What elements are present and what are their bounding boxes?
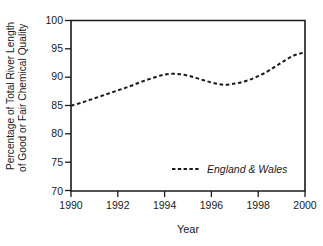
x-tick-label: 1996 (200, 199, 224, 211)
x-tick-label: 1998 (247, 199, 271, 211)
x-axis-title: Year (177, 223, 200, 235)
chart-svg: Percentage of Total River Length of Good… (0, 0, 323, 246)
y-tick-labels: 100 95 90 85 80 75 70 (45, 14, 63, 197)
x-tick-label: 1990 (59, 199, 83, 211)
legend-label: England & Wales (207, 163, 288, 175)
y-tick-label: 100 (45, 14, 63, 26)
y-axis-ticks (65, 21, 71, 191)
x-tick-labels: 1990 1992 1994 1996 1998 2000 (59, 199, 317, 211)
x-tick-label: 1992 (106, 199, 130, 211)
y-tick-label: 80 (51, 127, 63, 139)
series-line-england-wales (71, 52, 305, 105)
y-tick-label: 75 (51, 156, 63, 168)
x-tick-label: 1994 (153, 199, 177, 211)
y-axis-title-line2: of Good or Fair Chemical Quality (17, 23, 28, 172)
x-axis-ticks (71, 191, 305, 197)
y-tick-label: 90 (51, 70, 63, 82)
y-axis-title-line1: Percentage of Total River Length (5, 22, 16, 170)
y-tick-label: 70 (51, 185, 63, 197)
y-tick-label: 85 (51, 99, 63, 111)
chart-figure: Percentage of Total River Length of Good… (0, 0, 323, 246)
y-tick-label: 95 (51, 42, 63, 54)
y-axis-title: Percentage of Total River Length of Good… (5, 22, 28, 172)
x-tick-label: 2000 (293, 199, 317, 211)
legend: England & Wales (172, 163, 288, 175)
